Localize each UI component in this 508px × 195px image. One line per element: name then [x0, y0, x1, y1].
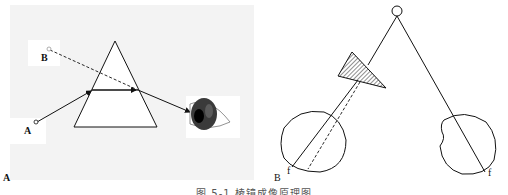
left-eye	[281, 111, 346, 172]
left-line-of-sight-upper	[368, 16, 397, 65]
binocular-svg	[254, 0, 508, 195]
hatched-prism	[338, 52, 386, 88]
deviated-ray	[308, 82, 360, 169]
fixation-target	[392, 6, 402, 16]
label-point-a: A	[24, 125, 31, 136]
label-left-fovea: f	[287, 165, 290, 176]
panel-b-binocular-prism-diagram: f f B	[254, 0, 508, 195]
right-eye	[440, 114, 496, 174]
point-b	[47, 47, 51, 51]
point-a	[34, 120, 38, 124]
prism	[74, 41, 157, 127]
right-line-of-sight	[397, 16, 485, 172]
figure-caption: 图 5-1 棱镜成像原理图	[0, 185, 508, 195]
left-line-of-sight-lower	[292, 80, 358, 167]
label-point-b: B	[41, 52, 48, 63]
panel-b-label: B	[274, 172, 281, 183]
panel-a-label: A	[3, 172, 10, 183]
prism-ray-svg	[0, 0, 254, 195]
label-right-fovea: f	[488, 167, 491, 178]
panel-a-prism-ray-diagram: B A A	[0, 0, 254, 195]
